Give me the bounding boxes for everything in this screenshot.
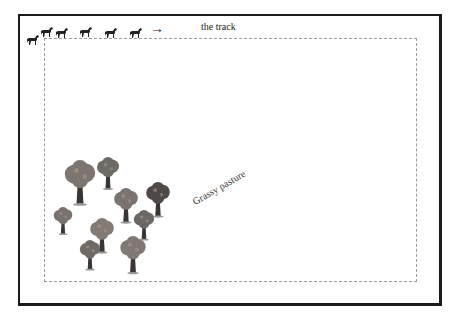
arrow-right-icon: → [150, 22, 164, 36]
horse-icon [40, 24, 54, 36]
tree-icon [118, 236, 148, 279]
horse-icon [104, 25, 118, 37]
tree-icon [62, 160, 98, 211]
horse-icon [79, 24, 93, 36]
horse-icon [26, 32, 40, 44]
horse-icon [55, 25, 69, 37]
horse-icon [129, 25, 143, 37]
tree-icon [52, 207, 74, 240]
tree-icon [78, 240, 102, 275]
track-label: the track [201, 21, 236, 32]
